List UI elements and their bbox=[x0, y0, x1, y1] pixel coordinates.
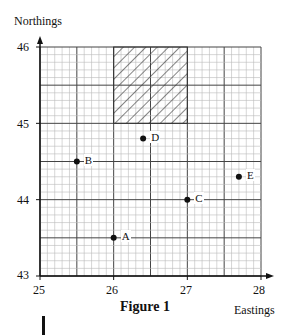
point-label-d: D bbox=[150, 131, 160, 143]
figure-title: Figure 1 bbox=[120, 299, 170, 315]
y-tick-43: 43 bbox=[17, 268, 29, 283]
y-tick-45: 45 bbox=[17, 117, 29, 132]
x-tick-27: 27 bbox=[180, 283, 192, 298]
point-c bbox=[184, 197, 190, 203]
point-d bbox=[140, 136, 146, 142]
y-tick-44: 44 bbox=[17, 193, 29, 208]
y-axis-label: Northings bbox=[14, 14, 62, 29]
point-label-b: B bbox=[84, 154, 93, 166]
x-tick-26: 26 bbox=[106, 283, 118, 298]
point-label-e: E bbox=[246, 169, 255, 181]
point-e bbox=[236, 174, 242, 180]
point-a bbox=[111, 235, 117, 241]
point-label-a: A bbox=[121, 230, 131, 242]
x-tick-28: 28 bbox=[253, 283, 265, 298]
point-label-c: C bbox=[194, 192, 203, 204]
point-b bbox=[74, 159, 80, 165]
text-cursor-bar bbox=[42, 316, 45, 335]
x-axis-label: Eastings bbox=[234, 303, 275, 318]
y-tick-46: 46 bbox=[17, 40, 29, 55]
x-tick-25: 25 bbox=[33, 283, 45, 298]
